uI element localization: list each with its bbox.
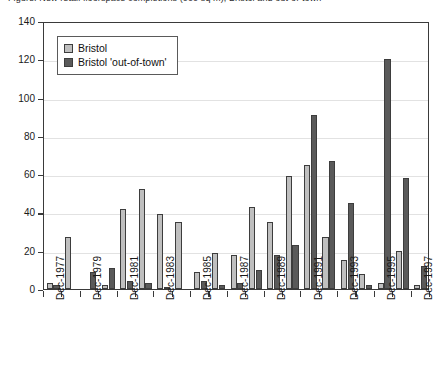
bar-chart: Figure: New retail floorspace completion… bbox=[0, 0, 443, 367]
legend-label: Bristol bbox=[78, 42, 107, 54]
legend-item: Bristol bbox=[64, 41, 167, 55]
x-axis-tick-mark bbox=[411, 291, 412, 297]
bar bbox=[175, 222, 181, 289]
y-axis-tick-label: 80 bbox=[5, 132, 35, 142]
x-axis-tick-label: Dec-1977 bbox=[56, 256, 66, 300]
bar bbox=[359, 274, 365, 289]
x-axis-tick-label: Dec-1981 bbox=[130, 256, 140, 300]
bar bbox=[194, 272, 200, 289]
bar bbox=[231, 255, 237, 289]
y-axis-tick-label: 0 bbox=[5, 285, 35, 295]
x-axis-tick-mark bbox=[153, 291, 154, 297]
x-axis-tick-label: Dec-1993 bbox=[350, 256, 360, 300]
x-axis-tick-label: Dec-1987 bbox=[240, 256, 250, 300]
y-axis-tick-label: 40 bbox=[5, 208, 35, 218]
chart-legend: Bristol Bristol 'out-of-town' bbox=[57, 36, 178, 75]
x-axis-tick-mark bbox=[300, 291, 301, 297]
bar bbox=[403, 178, 409, 289]
x-axis-tick-label: Dec-1985 bbox=[203, 256, 213, 300]
legend-label: Bristol 'out-of-town' bbox=[78, 56, 167, 68]
legend-item: Bristol 'out-of-town' bbox=[64, 55, 167, 69]
bar bbox=[341, 260, 347, 289]
x-axis-tick-mark bbox=[227, 291, 228, 297]
bar bbox=[292, 245, 298, 289]
x-axis-tick-label: Dec-1997 bbox=[424, 256, 434, 300]
bar bbox=[366, 285, 372, 289]
legend-swatch-icon bbox=[64, 58, 73, 67]
x-axis-tick-mark bbox=[43, 291, 44, 297]
bar bbox=[414, 285, 420, 289]
bar bbox=[145, 283, 151, 289]
bar bbox=[378, 283, 384, 289]
x-axis-tick-label: Dec-1979 bbox=[93, 256, 103, 300]
bar bbox=[47, 283, 53, 289]
bar bbox=[212, 253, 218, 289]
x-axis-tick-label: Dec-1991 bbox=[314, 256, 324, 300]
bar bbox=[384, 59, 390, 289]
x-axis-tick-mark bbox=[337, 291, 338, 297]
bar bbox=[219, 285, 225, 289]
y-axis-tick-label: 140 bbox=[5, 17, 35, 27]
x-axis-tick-mark bbox=[117, 291, 118, 297]
y-axis-tick-label: 60 bbox=[5, 170, 35, 180]
bar bbox=[109, 268, 115, 289]
x-axis-tick-label: Dec-1983 bbox=[166, 256, 176, 300]
chart-title-cropped: Figure: New retail floorspace completion… bbox=[8, 0, 438, 3]
bar bbox=[157, 214, 163, 289]
y-axis-tick-label: 20 bbox=[5, 247, 35, 257]
legend-swatch-icon bbox=[64, 44, 73, 53]
x-axis-tick-label: Dec-1995 bbox=[387, 256, 397, 300]
y-axis-tick-label: 120 bbox=[5, 55, 35, 65]
x-axis-tick-label: Dec-1989 bbox=[277, 256, 287, 300]
bar bbox=[329, 161, 335, 289]
x-axis-tick-mark bbox=[374, 291, 375, 297]
y-axis-tick-label: 100 bbox=[5, 94, 35, 104]
bar bbox=[267, 222, 273, 289]
x-axis-tick-mark bbox=[190, 291, 191, 297]
x-axis-tick-mark bbox=[80, 291, 81, 297]
bar bbox=[256, 270, 262, 289]
bar bbox=[304, 165, 310, 289]
x-axis-tick-mark bbox=[264, 291, 265, 297]
bar bbox=[120, 209, 126, 289]
